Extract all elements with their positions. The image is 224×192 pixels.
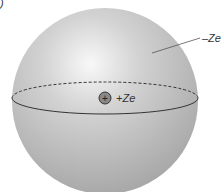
sphere-label: –Ze [201,32,221,44]
nucleus-label: +Ze [116,92,135,104]
corner-mark: ) [0,0,4,9]
nucleus-plus: + [102,93,108,104]
atom-model-diagram: ) + +Ze –Ze [0,0,224,192]
